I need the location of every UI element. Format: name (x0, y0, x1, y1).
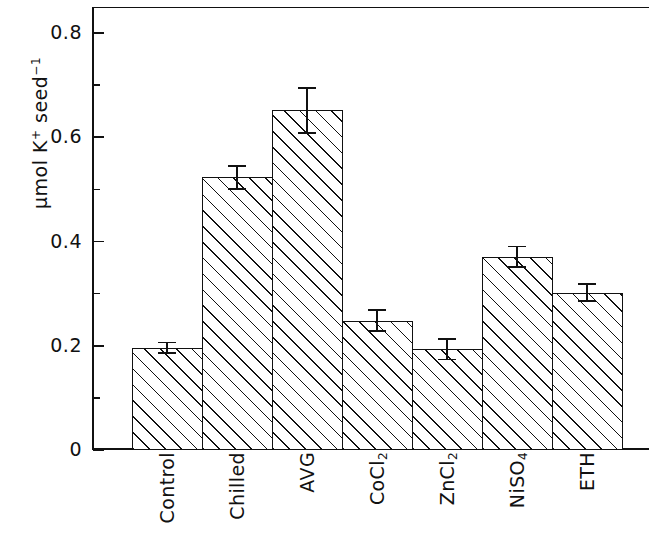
error-bar-cap-bottom (508, 266, 526, 268)
y-axis-tick-labels: 00.20.40.60.8 (22, 0, 82, 544)
x-label-slot: ZnCl2 (412, 452, 482, 544)
x-axis-label: ETH (578, 452, 597, 491)
y-tick-label: 0.2 (26, 336, 82, 355)
error-bar-cap-top (298, 87, 316, 89)
bar-chart-figure: µmol K+ seed−1 00.20.40.60.8 ControlChil… (0, 0, 649, 544)
bar (482, 257, 553, 450)
bar (412, 349, 483, 450)
x-axis-label: Chilled (228, 452, 247, 520)
x-axis-label-text: Chilled (226, 452, 248, 520)
y-tick-label: 0.4 (26, 232, 82, 251)
x-axis-label: CoCl2 (368, 452, 387, 505)
x-axis-category-labels: ControlChilledAVGCoCl2ZnCl2NiSO4ETH (92, 452, 649, 544)
x-axis-label-text: Control (156, 452, 178, 523)
error-bar-stem (306, 87, 308, 134)
bar-series (92, 7, 649, 450)
error-bar-stem (446, 338, 448, 360)
x-label-slot: ETH (552, 452, 622, 544)
x-axis-label-text: AVG (296, 452, 318, 493)
error-bar-cap-bottom (578, 300, 596, 302)
error-bar-cap-bottom (368, 330, 386, 332)
x-axis-label: Control (158, 452, 177, 523)
error-bar (225, 165, 249, 190)
x-label-slot: Chilled (202, 452, 272, 544)
y-tick-label: 0 (26, 440, 82, 459)
x-axis-label-subscript: 2 (376, 452, 390, 460)
error-bar (575, 283, 599, 302)
x-axis-label: AVG (298, 452, 317, 493)
error-bar-stem (586, 283, 588, 302)
bar (132, 348, 203, 450)
x-axis-label-text: ZnCl (436, 460, 458, 505)
x-label-slot: Control (132, 452, 202, 544)
error-bar-cap-top (158, 342, 176, 344)
error-bar (155, 342, 179, 355)
error-bar (505, 246, 529, 268)
error-bar-cap-top (228, 165, 246, 167)
error-bar-cap-top (438, 338, 456, 340)
error-bar-cap-top (578, 283, 596, 285)
x-axis-label: ZnCl2 (438, 452, 457, 505)
error-bar-stem (376, 309, 378, 332)
bar (342, 321, 413, 450)
bar (202, 177, 273, 450)
x-label-slot: AVG (272, 452, 342, 544)
plot-area (92, 7, 649, 450)
error-bar (365, 309, 389, 332)
x-label-slot: NiSO4 (482, 452, 552, 544)
x-label-slot: CoCl2 (342, 452, 412, 544)
x-axis-label-subscript: 4 (516, 452, 530, 460)
error-bar-cap-bottom (298, 132, 316, 134)
y-tick-label: 0.8 (26, 23, 82, 42)
x-axis-label-subscript: 2 (446, 452, 460, 460)
bar (552, 293, 623, 450)
x-axis-label: NiSO4 (508, 452, 527, 508)
error-bar-stem (236, 165, 238, 190)
error-bar-cap-top (368, 309, 386, 311)
error-bar-cap-top (508, 246, 526, 248)
y-tick-label: 0.6 (26, 127, 82, 146)
error-bar (295, 87, 319, 134)
error-bar-stem (516, 246, 518, 268)
x-axis-label-text: NiSO (506, 460, 528, 508)
x-axis-label-text: CoCl (366, 460, 388, 505)
bar (272, 110, 343, 450)
x-axis-label-text: ETH (576, 452, 598, 491)
error-bar-cap-bottom (228, 188, 246, 190)
error-bar (435, 338, 459, 360)
error-bar-cap-bottom (158, 352, 176, 354)
error-bar-cap-bottom (438, 359, 456, 361)
